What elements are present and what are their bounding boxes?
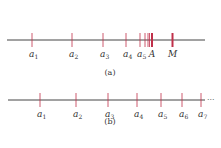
tick-label-a4: a4 [134, 109, 143, 120]
figure-b-caption: (b) [104, 117, 115, 126]
ellipsis: ··· [207, 95, 215, 104]
tick-label-a5: a5 [137, 49, 146, 60]
limit-A-label: A [148, 49, 156, 59]
tick-label-a1: a1 [29, 49, 38, 60]
figure-a-caption: (a) [104, 68, 115, 77]
figure-a-increasing-bounded-sequence: a1a2a3a4a5AM [7, 33, 205, 60]
number-line-diagram: a1a2a3a4a5AM (a) a1a2a3a4a5a6a7··· (b) [0, 0, 221, 148]
tick-label-a2: a2 [69, 49, 78, 60]
tick-label-a6: a6 [179, 109, 188, 120]
tick-label-a3: a3 [100, 49, 109, 60]
tick-label-a2: a2 [73, 109, 82, 120]
tick-label-a4: a4 [123, 49, 132, 60]
tick-label-a1: a1 [37, 109, 46, 120]
figure-b-increasing-sequence: a1a2a3a4a5a6a7··· [8, 93, 215, 120]
tick-label-a5: a5 [158, 109, 167, 120]
tick-label-a7: a7 [198, 109, 207, 120]
bound-M-label: M [167, 49, 178, 59]
